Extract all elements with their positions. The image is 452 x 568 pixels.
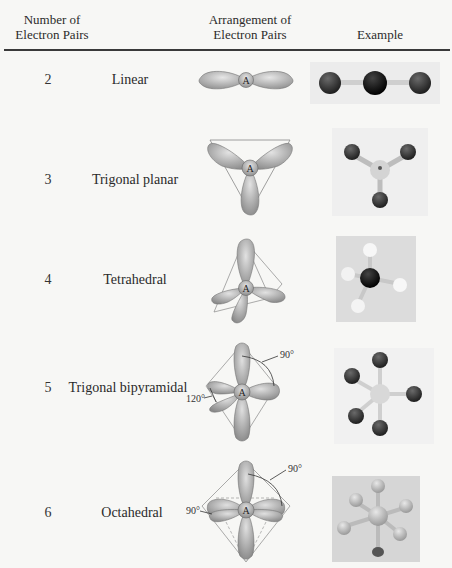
header-text: Electron Pairs [198,27,302,42]
row-3-arrangement: Tetrahedral [90,272,180,288]
row-4-pairs: 5 [38,380,58,396]
tetrahedral-orbital-diagram: A [208,236,292,326]
row-2-arrangement: Trigonal planar [80,172,190,188]
equatorial-angle-label: 120° [186,393,205,404]
center-atom-label: A [242,75,250,86]
row-2-pairs: 3 [38,172,58,188]
linear-orbital-diagram: A [198,66,294,94]
header-text: Arrangement of [198,12,302,27]
electron-pair-geometry-table: Number of Electron Pairs Arrangement of … [0,0,452,568]
equatorial-angle-label: 90° [186,505,200,516]
linear-molecule-model [310,62,440,104]
center-atom-label: A [242,283,250,294]
header-number-of-electron-pairs: Number of Electron Pairs [6,12,98,42]
row-1-pairs: 2 [38,72,58,88]
row-5-pairs: 6 [38,505,58,521]
trigonal-planar-orbital-diagram: A [204,128,296,220]
row-4-arrangement: Trigonal bipyramidal [68,380,188,396]
row-1-arrangement: Linear [90,72,170,88]
row-3-pairs: 4 [38,272,58,288]
header-arrangement: Arrangement of Electron Pairs [198,12,302,42]
trigonal-bipyramidal-molecule-model [334,348,434,444]
row-5-arrangement: Octahedral [92,505,172,521]
trigonal-planar-molecule-model [332,128,428,216]
header-text: Number of [6,12,98,27]
center-atom-label: A [238,387,246,398]
center-atom-label: A [246,163,254,174]
trigonal-bipyramidal-orbital-diagram: A 90° 120° [186,342,306,446]
octahedral-orbital-diagram: A 90° 90° [186,460,306,566]
tetrahedral-molecule-model [336,236,416,322]
axial-angle-label: 90° [280,349,294,360]
octahedral-molecule-model [332,476,420,562]
header-divider [4,49,450,51]
header-example: Example [340,27,420,42]
center-atom-label: A [242,505,250,516]
header-text: Electron Pairs [6,27,98,42]
axial-angle-label: 90° [288,463,302,474]
